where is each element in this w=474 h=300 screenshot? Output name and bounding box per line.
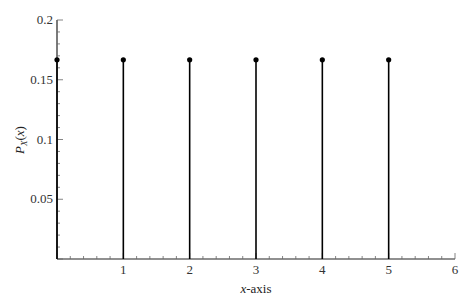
stem-marker [54, 57, 59, 62]
stem-marker [187, 57, 192, 62]
x-tick-label: 6 [452, 262, 459, 277]
y-tick-label: 0.05 [30, 191, 53, 206]
stem-marker [386, 57, 391, 62]
x-tick-label: 1 [120, 262, 127, 277]
y-tick-label: 0.2 [37, 12, 53, 27]
stem-marker [253, 57, 258, 62]
stem-marker [320, 57, 325, 62]
y-tick-label: 0.15 [30, 72, 53, 87]
y-tick-label: 0.1 [37, 132, 53, 147]
axes: 0.050.10.150.2123456 [30, 12, 459, 277]
y-axis-title: PX(x) [12, 126, 29, 155]
stem-marker [121, 57, 126, 62]
x-tick-label: 3 [253, 262, 260, 277]
stems [54, 57, 391, 259]
x-tick-label: 2 [186, 262, 193, 277]
stem-chart: 0.050.10.150.2123456 x-axis PX(x) [0, 0, 474, 300]
x-tick-label: 4 [319, 262, 326, 277]
x-tick-label: 5 [385, 262, 392, 277]
x-axis-title: x-axis [239, 281, 271, 296]
